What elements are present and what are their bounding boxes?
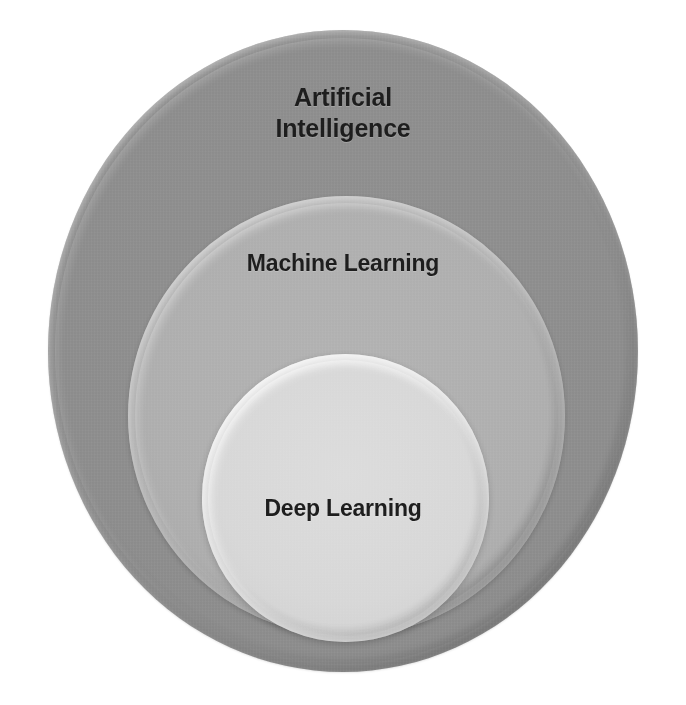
nested-circles-diagram: Artificial Intelligence Machine Learning… — [0, 0, 686, 705]
label-deep-learning: Deep Learning — [0, 494, 686, 522]
label-artificial-intelligence: Artificial Intelligence — [0, 82, 686, 143]
label-machine-learning: Machine Learning — [0, 249, 686, 277]
